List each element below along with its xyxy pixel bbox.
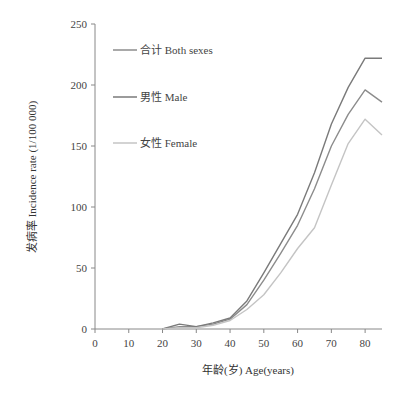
x-tick-label: 60 [292, 337, 304, 349]
x-tick-label: 70 [326, 337, 338, 349]
legend-label: 女性 Female [140, 136, 197, 149]
x-tick-label: 0 [92, 337, 98, 349]
y-tick-label: 50 [76, 262, 88, 274]
x-tick-label: 40 [225, 337, 237, 349]
x-tick-label: 10 [123, 337, 135, 349]
y-axis: 050100150200250 [71, 18, 96, 335]
x-axis: 01020304050607080 [92, 329, 382, 349]
series-line-0 [163, 90, 383, 329]
legend-label: 合计 Both sexes [140, 43, 213, 56]
x-tick-label: 80 [360, 337, 372, 349]
x-tick-label: 20 [157, 337, 169, 349]
y-tick-label: 100 [71, 201, 88, 213]
plot-lines [163, 58, 383, 329]
x-tick-label: 50 [258, 337, 270, 349]
x-tick-label: 30 [191, 337, 203, 349]
legend-label: 男性 Male [140, 90, 187, 103]
y-tick-label: 200 [71, 79, 88, 91]
series-line-1 [163, 58, 383, 329]
series-line-2 [163, 119, 383, 329]
y-axis-title: 发病率 Incidence rate (1/100 000) [25, 101, 39, 253]
x-axis-title: 年龄(岁) Age(years) [202, 363, 294, 377]
legend: 合计 Both sexes男性 Male女性 Female [113, 43, 213, 149]
y-tick-label: 0 [82, 323, 88, 335]
incidence-line-chart: 050100150200250 01020304050607080 合计 Bot… [0, 0, 403, 397]
y-tick-label: 250 [71, 18, 88, 30]
y-tick-label: 150 [71, 140, 88, 152]
